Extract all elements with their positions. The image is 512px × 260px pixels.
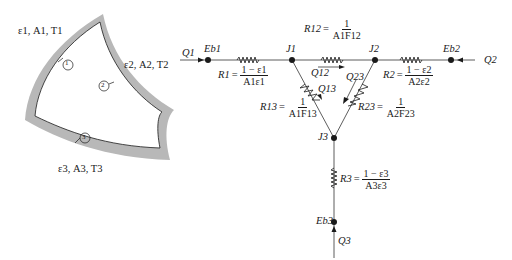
j1-label: J1 [286, 44, 296, 55]
r3-equation: R3= 1 − ε3A3ε3 [340, 168, 390, 191]
resistor-r1-icon [237, 57, 259, 63]
arrow-q12-icon [339, 65, 345, 69]
q23-label: Q23 [346, 72, 364, 83]
node-j2 [372, 57, 378, 63]
node-eb1 [205, 57, 211, 63]
r2-equation: R2= 1 − ε2A2ε2 [383, 64, 433, 87]
r23-equation: R23= 1A2F23 [358, 96, 417, 119]
arrow-q3-icon [332, 226, 337, 232]
eb3-label: Eb3 [316, 216, 333, 227]
surface-2-label: ε2, A2, T2 [124, 60, 168, 71]
surface-1-label: ε1, A1, T1 [18, 26, 62, 37]
q1-label: Q1 [182, 48, 195, 59]
r13-equation: R13= 1A1F13 [260, 96, 319, 119]
r1-equation: R1= 1 − ε1A1ε1 [218, 64, 268, 87]
surface-2-number: 2 [101, 82, 105, 89]
q12-label: Q12 [311, 68, 329, 79]
r12-equation: R12= 1A1F12 [304, 18, 363, 41]
surface-1-number: 1 [65, 60, 69, 67]
arrow-q23-icon [343, 97, 349, 104]
arrow-q2-icon [457, 58, 463, 63]
q13-label: Q13 [318, 84, 336, 95]
node-j3 [331, 135, 337, 141]
q3-label: Q3 [338, 236, 351, 247]
j2-label: J2 [369, 44, 379, 55]
resistor-r12-icon [321, 57, 343, 63]
node-j1 [289, 57, 295, 63]
resistor-r2-icon [400, 57, 422, 63]
q2-label: Q2 [484, 55, 497, 66]
diagram-canvas [0, 0, 512, 260]
eb2-label: Eb2 [443, 44, 460, 55]
j3-label: J3 [318, 132, 328, 143]
eb1-label: Eb1 [204, 44, 221, 55]
surface-3-number: 3 [82, 134, 86, 141]
arrow-q1-icon [198, 58, 204, 63]
surface-3-label: ε3, A3, T3 [58, 164, 102, 175]
node-eb2 [448, 57, 454, 63]
